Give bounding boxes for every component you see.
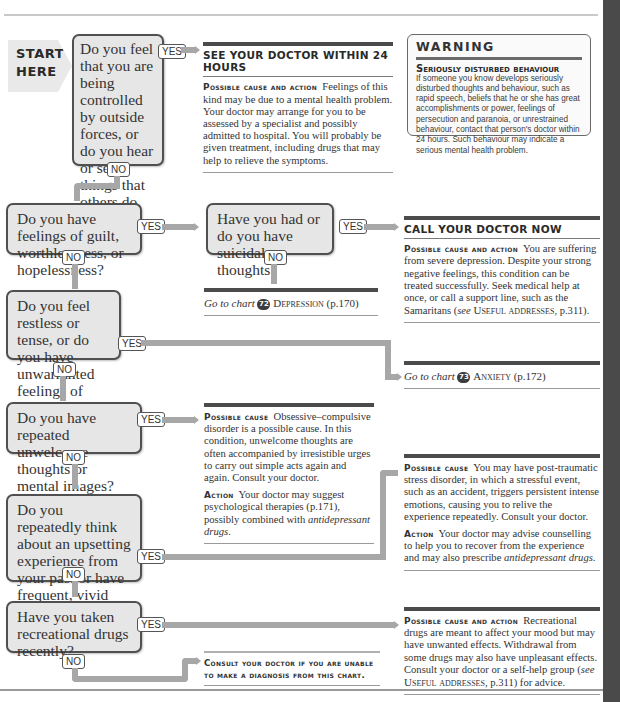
- q5-yes-button[interactable]: YES: [137, 549, 165, 564]
- warning-title: WARNING: [416, 39, 582, 54]
- thin-rule: [404, 322, 600, 323]
- start-here-marker: START HERE: [8, 40, 72, 92]
- q3-yes-arrow: [141, 340, 391, 346]
- thin-rule: [204, 315, 378, 316]
- top-rule: [4, 14, 598, 16]
- result-ocd: Possible cause Obsessive–compulsive diso…: [204, 403, 374, 544]
- question-unwelcome-thoughts[interactable]: Do you have repeated unwelcome thoughts …: [6, 402, 142, 454]
- q5-no-button[interactable]: NO: [62, 567, 85, 582]
- consult-doctor-note: Consult your doctor if you are unable to…: [204, 651, 380, 686]
- warning-subtitle: Seriously disturbed behaviour: [416, 63, 582, 74]
- q2b-no-button[interactable]: NO: [264, 250, 287, 265]
- arrow-head-icon: [394, 223, 399, 231]
- thick-rule: [204, 403, 374, 407]
- q6-yes-button[interactable]: YES: [137, 617, 165, 632]
- q5-yes-arrow: [380, 470, 398, 476]
- thick-rule: [404, 216, 600, 220]
- q2-yes-arrow: [162, 224, 194, 230]
- q6-yes-arrow: [162, 622, 394, 628]
- result-heading: SEE YOUR DOCTOR WITHIN 24 HOURS: [203, 49, 393, 77]
- q4-yes-arrow: [162, 417, 194, 423]
- q5-yes-arrow: [162, 554, 386, 560]
- q3-no-button[interactable]: NO: [53, 362, 76, 377]
- thin-rule: [203, 172, 393, 173]
- page-edge-band: [603, 0, 620, 702]
- question-controlled-forces[interactable]: Do you feel that you are being controlle…: [72, 34, 164, 166]
- thick-rule: [203, 42, 393, 46]
- q6-no-connector: [72, 676, 188, 682]
- q2b-yes-button[interactable]: YES: [339, 219, 367, 234]
- goto-anxiety-chart[interactable]: Go to chart 73 Anxiety (p.172): [404, 371, 600, 389]
- result-see-doctor-24h: SEE YOUR DOCTOR WITHIN 24 HOURS Possible…: [203, 42, 393, 173]
- thick-rule: [404, 607, 600, 611]
- q1-no-button[interactable]: NO: [107, 162, 130, 177]
- thick-rule: [404, 361, 600, 365]
- arrow-head-icon: [194, 223, 199, 231]
- start-label: START: [8, 40, 72, 63]
- arrow-head-icon: [397, 373, 402, 381]
- warning-text: If someone you know develops seriously d…: [416, 74, 582, 156]
- warning-rule: [416, 57, 582, 60]
- arrow-head-icon: [194, 416, 199, 424]
- q1-yes-arrow: [181, 47, 195, 53]
- q5-yes-arrow: [380, 470, 386, 560]
- goto-depression-chart[interactable]: Go to chart 72 Depression (p.170): [204, 288, 378, 316]
- result-heading: CALL YOUR DOCTOR NOW: [404, 223, 600, 239]
- here-label: HERE: [8, 63, 72, 81]
- thin-rule: [204, 651, 380, 653]
- q3-no-arrow: [60, 376, 66, 401]
- chart-number-badge: 72: [257, 299, 270, 310]
- thin-rule: [404, 570, 600, 571]
- thin-rule: [404, 694, 600, 695]
- q1-no-connector: [80, 183, 120, 189]
- q4-no-button[interactable]: NO: [62, 450, 85, 465]
- question-suicidal-thoughts[interactable]: Have you had or do you have suicidal tho…: [206, 203, 334, 255]
- question-recreational-drugs[interactable]: Have you taken recreational drugs recent…: [6, 601, 142, 653]
- q2-no-button[interactable]: NO: [62, 250, 85, 265]
- thick-rule: [404, 454, 600, 458]
- q4-yes-button[interactable]: YES: [137, 412, 165, 427]
- arrow-head-icon: [394, 621, 399, 629]
- thin-rule: [204, 685, 380, 686]
- q5-no-arrow: [72, 581, 78, 597]
- result-call-doctor-now: CALL YOUR DOCTOR NOW Possible cause and …: [404, 216, 600, 323]
- arrow-head-icon: [195, 46, 200, 54]
- q2b-yes-arrow: [364, 224, 394, 230]
- warning-box: WARNING Seriously disturbed behaviour If…: [407, 34, 591, 136]
- arrow-head-icon: [196, 657, 201, 665]
- thin-rule: [204, 543, 374, 544]
- result-ptsd: Possible cause You may have post-traumat…: [404, 454, 600, 571]
- q2b-no-arrow: [271, 264, 277, 284]
- q1-no-connector: [74, 183, 80, 201]
- question-restless-tense[interactable]: Do you feel restless or tense, or do you…: [6, 290, 121, 360]
- q2-no-arrow: [72, 264, 78, 289]
- thick-rule: [204, 288, 378, 292]
- q2-yes-button[interactable]: YES: [137, 219, 165, 234]
- question-guilt-worthlessness[interactable]: Do you have feelings of guilt, worthless…: [6, 203, 142, 255]
- q4-no-arrow: [72, 464, 78, 489]
- result-recreational-drugs: Possible cause and action Recreational d…: [404, 607, 600, 695]
- chart-number-badge: 73: [457, 372, 470, 383]
- q6-no-connector: [182, 658, 196, 664]
- q6-no-button[interactable]: NO: [62, 654, 85, 669]
- q3-yes-arrow: [385, 374, 397, 380]
- thin-rule: [404, 388, 600, 389]
